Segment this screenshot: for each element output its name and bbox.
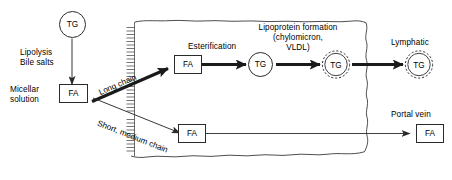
diagram-canvas: TG FA FA FA TG TG TG FA Lipolysis Bile s… [0,0,452,180]
node-fa-portal-vein[interactable]: FA [416,124,444,143]
label-micellar: Micellar [10,85,39,96]
node-tg-esterified[interactable]: TG [248,52,273,77]
node-tg-lymphatic-label: TG [405,51,433,79]
label-bile-salts: Bile salts [20,58,54,69]
label-esterification: Esterification [188,42,236,53]
label-lipoprotein-formation-line1: Lipoprotein formation [243,23,353,34]
node-tg-lymphatic[interactable]: TG [405,51,433,79]
node-fa-long-chain[interactable]: FA [174,55,202,74]
label-portal-vein: Portal vein [391,110,431,121]
label-lymphatic: Lymphatic [391,38,429,49]
node-tg-lumen[interactable]: TG [59,11,86,38]
node-tg-chylomicron-label: TG [322,51,350,79]
label-solution: solution [10,95,39,106]
node-fa-micellar[interactable]: FA [59,84,88,103]
label-lipoprotein-formation-line3: VLDL) [243,43,353,54]
node-fa-short-medium-chain[interactable]: FA [178,124,206,143]
label-lipoprotein-formation-line2: (chylomicron, [243,33,353,44]
node-tg-chylomicron[interactable]: TG [322,51,350,79]
label-lipolysis: Lipolysis [20,48,52,59]
